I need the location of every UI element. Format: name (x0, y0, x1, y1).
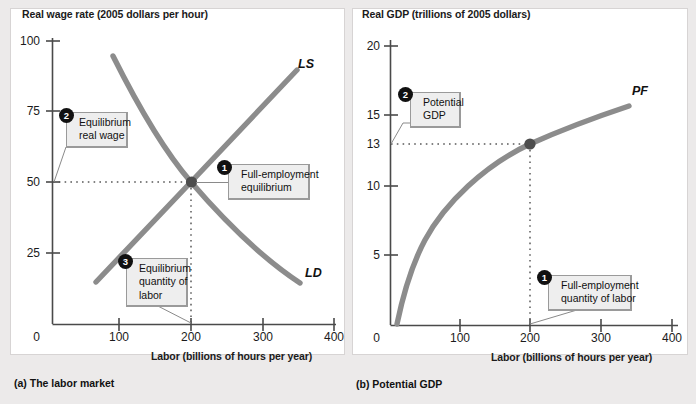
callout-b1-line-2: quantity of labor (561, 292, 625, 305)
callout-a2-line-2: real wage (79, 129, 121, 142)
callout-b2-line-2: GDP (423, 109, 454, 122)
panel-b-xtick-label-200: 200 (510, 331, 550, 345)
panel-b-ytick-label-0: 0 (348, 331, 380, 345)
panel-b-xtick-label-400: 400 (652, 331, 692, 345)
panel-a-xtick-label-100: 100 (99, 330, 139, 344)
callout-potential-gdp[interactable]: Potential GDP (410, 92, 461, 128)
panel-a-caption: (a) The labor market (14, 377, 114, 389)
panel-b-ytick-label-20: 20 (348, 39, 380, 53)
callout-a1-line-1: Full-employment (241, 168, 303, 181)
panel-a-x-axis-title: Labor (billions of hours per year) (151, 350, 312, 362)
panel-b-ytick-label-15: 15 (348, 108, 380, 122)
panel-b-x-axis-title: Labor (billions of hours per year) (491, 351, 652, 363)
callout-equilibrium-real-wage[interactable]: Equilibrium real wage (66, 112, 128, 148)
panel-potential-gdp (352, 8, 688, 355)
badge-2-panel-a: 2 (59, 108, 74, 123)
callout-a3-line-1: Equilibrium (139, 262, 181, 275)
production-function-label: PF (632, 84, 648, 98)
badge-2-panel-b: 2 (398, 87, 413, 102)
panel-a-xtick-label-300: 300 (243, 330, 283, 344)
callout-a3-line-3: labor (139, 289, 181, 302)
panel-b-ytick-label-10: 10 (348, 179, 380, 193)
panel-a-ytick-label-0: 0 (8, 330, 40, 344)
panel-a-ytick-label-75: 75 (8, 104, 40, 118)
badge-3-panel-a: 3 (118, 254, 133, 269)
panel-a-ytick-label-25: 25 (8, 246, 40, 260)
badge-1-panel-a: 1 (217, 160, 232, 175)
economics-figure: Real wage rate (2005 dollars per hour) 1… (0, 0, 696, 404)
panel-b-y-axis-title: Real GDP (trillions of 2005 dollars) (362, 8, 530, 20)
panel-a-y-axis-title: Real wage rate (2005 dollars per hour) (22, 8, 208, 20)
panel-a-ytick-label-50: 50 (8, 175, 40, 189)
panel-b-ytick-label-13: 13 (348, 137, 380, 151)
callout-b2-line-1: Potential (423, 96, 454, 109)
labor-supply-label: LS (298, 57, 314, 71)
panel-b-ytick-label-5: 5 (348, 248, 380, 262)
callout-a3-line-2: quantity of (139, 275, 181, 288)
panel-b-xtick-label-100: 100 (440, 331, 480, 345)
panel-a-xtick-label-200: 200 (171, 330, 211, 344)
callout-b1-line-1: Full-employment (561, 279, 625, 292)
callout-a2-line-1: Equilibrium (79, 116, 121, 129)
panel-b-xtick-label-300: 300 (581, 331, 621, 345)
panel-a-ytick-label-100: 100 (8, 34, 40, 48)
callout-full-employment-quantity-of-labor[interactable]: Full-employment quantity of labor (548, 275, 632, 311)
labor-demand-label: LD (305, 266, 322, 280)
panel-b-caption: (b) Potential GDP (356, 378, 442, 390)
badge-1-panel-b: 1 (537, 270, 552, 285)
callout-a1-line-2: equilibrium (241, 181, 303, 194)
callout-equilibrium-quantity-of-labor[interactable]: Equilibrium quantity of labor (126, 258, 188, 307)
callout-full-employment-equilibrium[interactable]: Full-employment equilibrium (228, 164, 310, 200)
